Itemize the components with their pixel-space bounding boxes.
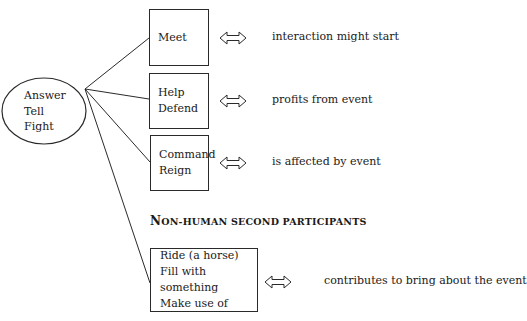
section-heading: NON-HUMAN SECOND PARTICIPANTS [150, 214, 367, 228]
box-help-defend: Help Defend [149, 73, 209, 129]
double-headed-arrow-icon [219, 31, 247, 45]
box-line: Command [159, 147, 208, 163]
description-affected: is affected by event [272, 155, 381, 168]
double-headed-arrow-icon [264, 275, 292, 289]
connector-line-command [85, 89, 150, 162]
connector-line-meet [85, 38, 149, 89]
box-line: Make use of [160, 296, 257, 312]
ellipse-line-tell: Tell [24, 104, 66, 120]
box-line: Defend [158, 101, 208, 117]
box-non-human: Ride (a horse) Fill with something Make … [150, 248, 258, 312]
heading-initial: N [150, 214, 161, 228]
description-contributes: contributes to bring about the event [324, 274, 527, 287]
description-interaction: interaction might start [272, 30, 399, 43]
description-profits: profits from event [272, 93, 372, 106]
ellipse-line-fight: Fight [24, 119, 66, 135]
box-meet: Meet [149, 9, 209, 66]
box-line: Ride (a horse) [160, 248, 257, 264]
box-line: Meet [158, 30, 208, 46]
ellipse-label: Answer Tell Fight [24, 88, 66, 135]
ellipse-line-answer: Answer [24, 88, 66, 104]
box-command-reign: Command Reign [150, 135, 209, 191]
connector-line-ride [85, 89, 150, 283]
double-headed-arrow-icon [219, 94, 247, 108]
connector-line-help [85, 89, 149, 99]
box-line: Help [158, 85, 208, 101]
box-line: Reign [159, 163, 208, 179]
double-headed-arrow-icon [219, 156, 247, 170]
heading-rest: ON-HUMAN SECOND PARTICIPANTS [161, 216, 366, 227]
box-line: Fill with something [160, 264, 257, 296]
